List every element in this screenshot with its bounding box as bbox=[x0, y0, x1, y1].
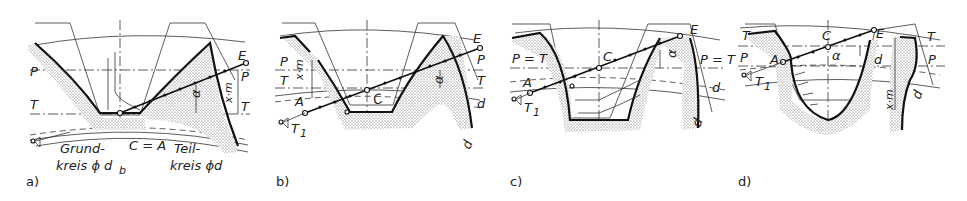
tangent-point bbox=[31, 139, 35, 143]
label-teilkreis-2: kreis ϕd bbox=[170, 158, 223, 173]
label-c: C bbox=[603, 49, 613, 64]
label-t-right: T bbox=[477, 73, 486, 88]
label-c-a: C = A bbox=[129, 138, 166, 153]
label-t-right: T bbox=[241, 99, 250, 114]
label-p-right: P bbox=[477, 52, 485, 67]
label-d: d bbox=[477, 96, 486, 111]
label-shift: x·m bbox=[293, 59, 306, 81]
label-t1-sub: 1 bbox=[300, 127, 307, 140]
tangent-point bbox=[742, 73, 746, 77]
label-p-t-right: P = T bbox=[700, 52, 736, 67]
point-c bbox=[597, 66, 602, 71]
panel-c: P = T A T 1 C E P = T α d d c) bbox=[510, 20, 736, 189]
label-teilkreis-1: Teil- bbox=[174, 141, 201, 156]
label-t-right: T bbox=[927, 29, 936, 44]
label-t1: T bbox=[291, 121, 300, 136]
label-p-right: P bbox=[928, 52, 936, 67]
point-e bbox=[678, 34, 683, 39]
gear-meshing-figure: P T E P T x·m α C = A Grund- kreis ϕ d b… bbox=[0, 0, 967, 201]
label-grundkreis-sub: b bbox=[119, 164, 126, 177]
label-p: P bbox=[280, 54, 288, 69]
label-t1-sub: 1 bbox=[533, 106, 540, 119]
label-p: P bbox=[740, 50, 748, 65]
label-grundkreis-2: kreis ϕ d bbox=[56, 158, 113, 173]
label-d: d bbox=[712, 80, 721, 95]
label-db: d bbox=[459, 137, 476, 151]
label-p: P bbox=[30, 64, 38, 79]
label-shift: x·m bbox=[883, 89, 896, 111]
label-alpha: α bbox=[832, 48, 841, 63]
label-t: T bbox=[30, 97, 39, 112]
label-alpha: α bbox=[431, 75, 446, 84]
label-p-t-left: P = T bbox=[512, 51, 548, 66]
point-contact-low bbox=[345, 110, 349, 114]
label-e: E bbox=[238, 48, 247, 63]
label-a: A bbox=[522, 75, 532, 90]
label-d: d bbox=[874, 52, 883, 67]
point-c bbox=[365, 88, 370, 93]
panel-a: P T E P T x·m α C = A Grund- kreis ϕ d b… bbox=[26, 20, 250, 189]
tangent-point bbox=[512, 97, 516, 101]
tip-circle-arc bbox=[35, 36, 245, 45]
panel-label-b: b) bbox=[276, 174, 289, 189]
panel-label-d: d) bbox=[738, 174, 751, 189]
panel-d: T P A T 1 C α E T P d d x·m d) bbox=[738, 20, 945, 189]
point-e bbox=[478, 46, 483, 51]
tooth-flank-left bbox=[28, 43, 105, 130]
point-c bbox=[826, 45, 831, 50]
label-e: E bbox=[473, 31, 482, 46]
tangent-point bbox=[279, 120, 283, 124]
label-c: C bbox=[822, 28, 832, 43]
panel-label-c: c) bbox=[510, 174, 522, 189]
label-a: A bbox=[769, 52, 779, 67]
label-t: T bbox=[280, 73, 289, 88]
label-alpha: α bbox=[188, 89, 203, 98]
label-t: T bbox=[742, 28, 751, 43]
label-t1: T bbox=[524, 100, 533, 115]
label-db: d bbox=[909, 87, 926, 101]
tooth-root-fill bbox=[95, 118, 145, 130]
point-c-a bbox=[118, 111, 123, 116]
panel-label-a: a) bbox=[26, 174, 39, 189]
label-a: A bbox=[294, 94, 304, 109]
panel-b: P T x·m A C T 1 E P T α d d b) bbox=[275, 20, 486, 189]
label-t1: T bbox=[755, 74, 764, 89]
label-shift: x·m bbox=[222, 82, 235, 104]
point-contact-low bbox=[570, 84, 574, 88]
label-e: E bbox=[876, 26, 885, 41]
label-e: E bbox=[690, 22, 699, 37]
label-t1-sub: 1 bbox=[764, 80, 771, 93]
label-p-right: P bbox=[241, 69, 249, 84]
generating-lines bbox=[108, 52, 140, 110]
label-grundkreis-1: Grund- bbox=[60, 141, 105, 156]
label-alpha: α bbox=[664, 49, 679, 58]
